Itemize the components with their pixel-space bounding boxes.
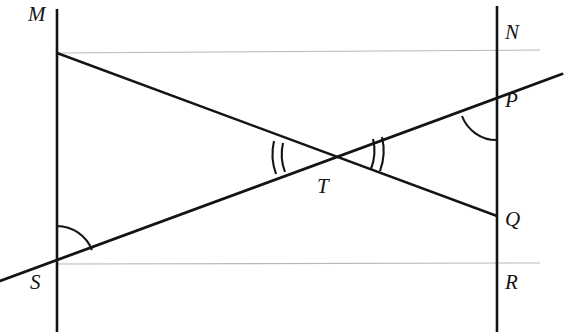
angle-arc-t-left-inner [282, 143, 285, 172]
guide-top-line [57, 50, 540, 53]
geometry-figure: M N P Q R S T [0, 0, 565, 332]
angle-arc-p [462, 116, 497, 140]
point-label-r: R [505, 272, 518, 293]
point-label-n: N [505, 22, 519, 43]
point-label-m: M [28, 4, 46, 25]
point-label-q: Q [505, 209, 520, 230]
point-label-s: S [30, 272, 41, 293]
point-label-t: T [317, 176, 329, 197]
guide-bottom-line [57, 263, 540, 264]
line-sp-transversal [0, 74, 562, 281]
line-mq-transversal [57, 53, 497, 216]
geometry-canvas [0, 0, 565, 332]
angle-arc-s [57, 226, 92, 250]
angle-arc-t-left-outer [272, 141, 276, 174]
point-label-p: P [505, 90, 518, 111]
